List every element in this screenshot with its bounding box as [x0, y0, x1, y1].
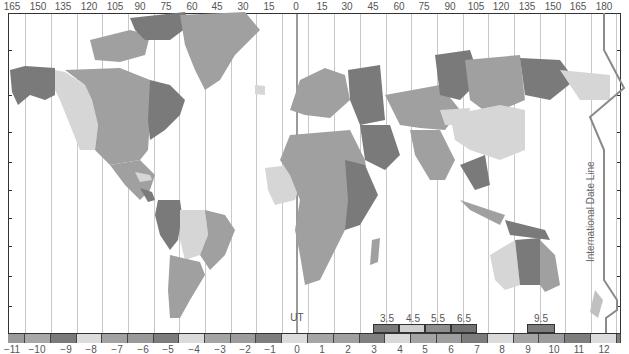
- zone-cell: [488, 334, 514, 343]
- time-zone-bar: [8, 333, 621, 343]
- zone-label: 5: [422, 344, 428, 354]
- world-landmasses: [0, 0, 629, 354]
- zone-cell: [308, 334, 334, 343]
- zone-label: 8: [499, 344, 505, 354]
- zone-label: 6: [448, 344, 454, 354]
- half-hour-label: 9.5: [534, 313, 548, 324]
- australia: [490, 238, 560, 292]
- zone-cell: [360, 334, 385, 343]
- zone-label: 2: [345, 344, 351, 354]
- zone-cell: [282, 334, 308, 343]
- zone-label: 3: [371, 344, 377, 354]
- zone-cell: [8, 334, 25, 343]
- zone-label: 4: [397, 344, 403, 354]
- zone-cell: [462, 334, 488, 343]
- international-date-line-label: International Date Line: [585, 161, 596, 262]
- zone-label: −6: [137, 344, 148, 354]
- zone-cell: [154, 334, 179, 343]
- zone-cell: [77, 334, 102, 343]
- half-hour-label: 6.5: [457, 313, 471, 324]
- zone-cell: [231, 334, 256, 343]
- zone-cell: [25, 334, 51, 343]
- zone-label: 10: [548, 344, 559, 354]
- half-hour-zone-5-5: [425, 324, 451, 333]
- half-hour-zone-9-5: [527, 324, 555, 333]
- zone-cell: [437, 334, 462, 343]
- half-hour-zone-4-5: [399, 324, 425, 333]
- southeast-asia-islands: [460, 200, 550, 240]
- zone-cell: [51, 334, 77, 343]
- zone-cell: [617, 334, 621, 343]
- zone-cell: [102, 334, 128, 343]
- north-america: [10, 12, 190, 202]
- zone-cell: [385, 334, 411, 343]
- zone-label: −5: [162, 344, 173, 354]
- zone-label: 1: [319, 344, 325, 354]
- zone-label: −8: [85, 344, 96, 354]
- zone-cell: [565, 334, 591, 343]
- europe: [255, 65, 385, 125]
- new-zealand: [590, 290, 603, 318]
- ut-label: UT: [290, 312, 303, 323]
- zone-cell: [179, 334, 205, 343]
- zone-cell: [539, 334, 565, 343]
- zone-cell: [334, 334, 360, 343]
- half-hour-zone-3-5: [373, 324, 399, 333]
- africa: [265, 130, 380, 285]
- zone-cell: [411, 334, 437, 343]
- zone-cell: [256, 334, 282, 343]
- zone-cell: [514, 334, 539, 343]
- zone-label: −10: [29, 344, 46, 354]
- zone-label: −9: [60, 344, 71, 354]
- half-hour-zone-6-5: [451, 324, 477, 333]
- zone-label: −11: [4, 344, 20, 354]
- zone-label: 7: [474, 344, 480, 354]
- zone-label: −1: [264, 344, 275, 354]
- greenland: [180, 12, 260, 90]
- zone-cell: [205, 334, 231, 343]
- zone-cell: [128, 334, 154, 343]
- zone-label: 11: [574, 344, 584, 354]
- zone-label: 0: [294, 344, 300, 354]
- half-hour-label: 5.5: [431, 313, 445, 324]
- zone-label: −7: [111, 344, 122, 354]
- zone-cell: [591, 334, 617, 343]
- zone-label: −3: [214, 344, 225, 354]
- zone-label: −2: [239, 344, 250, 354]
- zone-label: −4: [188, 344, 199, 354]
- south-america: [155, 200, 235, 318]
- zone-label: 12: [598, 344, 609, 354]
- zone-label: 9: [525, 344, 531, 354]
- half-hour-label: 4.5: [406, 313, 420, 324]
- asia: [360, 50, 610, 190]
- half-hour-label: 3.5: [380, 313, 394, 324]
